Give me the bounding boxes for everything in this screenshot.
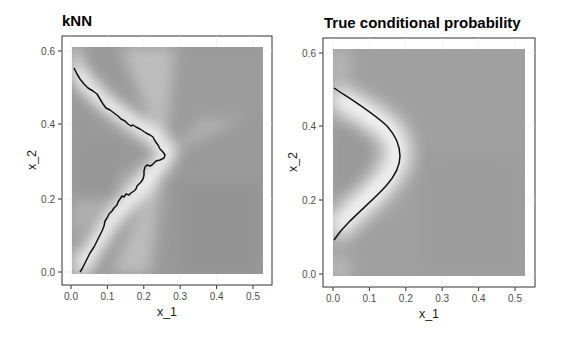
knn-title: kNN xyxy=(62,12,92,29)
true-prob-y-tick-labels: 0.6 0.4 0.2 0.0 xyxy=(302,48,316,280)
knn-y-axis-label: x_2 xyxy=(25,150,39,170)
svg-text:0.3: 0.3 xyxy=(435,293,449,304)
true-prob-heatmap xyxy=(333,49,525,276)
knn-y-tick-labels: 0.6 0.4 0.2 0.0 xyxy=(41,46,55,278)
true-prob-x-axis-label: x_1 xyxy=(419,307,439,321)
svg-text:0.5: 0.5 xyxy=(508,293,522,304)
svg-text:0.4: 0.4 xyxy=(302,121,316,132)
svg-text:0.4: 0.4 xyxy=(210,291,224,302)
svg-text:0.5: 0.5 xyxy=(246,291,260,302)
svg-text:0.6: 0.6 xyxy=(302,48,316,59)
true-prob-y-axis-label: x_2 xyxy=(286,152,300,172)
knn-panel: kNN xyxy=(25,12,272,319)
svg-text:0.4: 0.4 xyxy=(472,293,486,304)
svg-text:0.0: 0.0 xyxy=(302,269,316,280)
knn-x-axis-label: x_1 xyxy=(157,305,177,319)
svg-text:0.4: 0.4 xyxy=(41,119,55,130)
svg-text:0.1: 0.1 xyxy=(362,293,376,304)
svg-text:0.0: 0.0 xyxy=(41,267,55,278)
svg-text:0.2: 0.2 xyxy=(399,293,413,304)
svg-text:0.0: 0.0 xyxy=(326,293,340,304)
svg-text:0.2: 0.2 xyxy=(302,195,316,206)
knn-x-tick-labels: 0.0 0.1 0.2 0.3 0.4 0.5 xyxy=(64,291,260,302)
svg-text:0.3: 0.3 xyxy=(173,291,187,302)
figure: kNN xyxy=(0,0,563,340)
svg-text:0.6: 0.6 xyxy=(41,46,55,57)
svg-text:0.0: 0.0 xyxy=(64,291,78,302)
true-prob-title: True conditional probability xyxy=(324,14,521,31)
true-prob-panel: True conditional probability xyxy=(286,14,535,321)
true-prob-x-tick-labels: 0.0 0.1 0.2 0.3 0.4 0.5 xyxy=(326,293,522,304)
svg-text:0.2: 0.2 xyxy=(137,291,151,302)
svg-text:0.1: 0.1 xyxy=(100,291,114,302)
knn-heatmap xyxy=(72,47,263,274)
svg-text:0.2: 0.2 xyxy=(41,194,55,205)
